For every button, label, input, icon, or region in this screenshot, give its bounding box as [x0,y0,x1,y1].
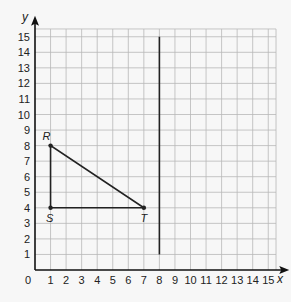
y-tick-label: 5 [24,186,30,198]
x-tick-label: 9 [172,274,178,286]
y-tick-label: 4 [24,202,30,214]
y-tick-label: 9 [24,124,30,136]
x-tick-label: 14 [247,274,259,286]
x-tick-label: 10 [184,274,196,286]
y-tick-label: 11 [19,93,30,105]
x-tick-label: 15 [262,274,274,286]
origin-label: 0 [25,274,31,286]
vertex-point-r [48,143,52,147]
y-tick-label: 12 [18,77,30,89]
y-tick-label: 8 [24,140,30,152]
grid-lines [35,29,276,270]
vertex-point-t [142,206,146,210]
x-tick-label: 2 [63,274,69,286]
x-tick-label: 12 [215,274,227,286]
y-tick-label: 7 [24,155,30,167]
x-axis-label: x [276,272,284,286]
vertex-point-s [48,206,52,210]
x-tick-label: 13 [231,274,243,286]
y-tick-label: 15 [18,31,30,43]
vertex-label-r: R [43,130,51,142]
y-tick-label: 13 [18,62,30,74]
x-tick-label: 5 [110,274,116,286]
x-tick-label: 11 [200,274,211,286]
y-tick-label: 10 [18,109,30,121]
vertex-label-t: T [140,212,148,224]
x-tick-label: 3 [79,274,85,286]
y-tick-label: 2 [24,233,30,245]
x-tick-label: 1 [47,274,53,286]
y-tick-label: 1 [24,248,30,260]
x-tick-label: 7 [141,274,147,286]
y-tick-label: 14 [18,46,30,58]
y-tick-label: 3 [24,217,30,229]
y-axis-label: y [21,10,29,24]
x-tick-label: 6 [125,274,131,286]
x-tick-label: 4 [94,274,100,286]
x-tick-label: 8 [156,274,162,286]
x-tick-labels: 123456789101112131415 [47,274,274,286]
coordinate-plane: 123456789101112131415 123456789101112131… [0,0,291,302]
vertex-label-s: S [46,212,54,224]
y-tick-labels: 123456789101112131415 [18,31,30,261]
y-tick-label: 6 [24,171,30,183]
